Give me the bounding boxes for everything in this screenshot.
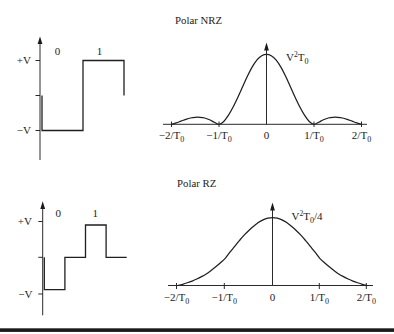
bit-label: 0 (56, 207, 62, 219)
x-tick-label: 1/T0 (304, 129, 323, 144)
neg-v-label: −V (18, 288, 32, 300)
axis-arrow-icon (38, 37, 43, 45)
neg-v-label: −V (17, 124, 31, 136)
pos-v-label: +V (17, 54, 31, 66)
axis-arrow-icon (40, 201, 45, 209)
bit-label: 0 (55, 45, 61, 57)
figure-canvas: +V −V 0 1 Polar NRZ −2/T0 −1/T0 0 1/T0 2… (0, 0, 394, 334)
axis-arrow-icon (264, 43, 269, 51)
rz-spectrum-plot: −2/T0 −1/T0 0 1/T0 2/T0 V2T0/4 (164, 203, 376, 306)
peak-label: V2T0/4 (292, 209, 323, 225)
rz-waveform-plot: +V −V 0 1 (18, 201, 127, 315)
pos-v-label: +V (18, 215, 32, 227)
x-tick-label: −2/T0 (164, 291, 189, 306)
x-tick-label: 0 (264, 129, 270, 141)
bit-label: 1 (93, 207, 99, 219)
nrz-waveform-plot: +V −V 0 1 (17, 37, 124, 161)
nrz-signal-trace (42, 61, 124, 131)
bottom-rule (0, 328, 394, 332)
panel-polar-nrz: +V −V 0 1 Polar NRZ −2/T0 −1/T0 0 1/T0 2… (17, 14, 371, 160)
x-tick-label: −1/T0 (212, 291, 237, 306)
panel-title: Polar NRZ (175, 14, 222, 26)
panel-polar-rz: +V −V 0 1 Polar RZ −2/T0 −1/T0 0 1/T0 2/… (18, 177, 376, 315)
x-tick-label: 2/T0 (357, 291, 376, 306)
rz-signal-trace (44, 225, 126, 290)
axis-arrow-icon (270, 203, 275, 211)
x-tick-label: 0 (270, 291, 276, 303)
figure: +V −V 0 1 Polar NRZ −2/T0 −1/T0 0 1/T0 2… (0, 0, 394, 334)
x-tick-label: 2/T0 (352, 129, 371, 144)
bit-label: 1 (97, 45, 103, 57)
peak-label: V2T0 (286, 50, 308, 66)
panel-title: Polar RZ (177, 177, 216, 189)
x-tick-label: −2/T0 (159, 129, 184, 144)
x-tick-label: 1/T0 (310, 291, 329, 306)
nrz-spectrum-plot: −2/T0 −1/T0 0 1/T0 2/T0 V2T0 (159, 43, 371, 144)
x-tick-label: −1/T0 (206, 129, 231, 144)
